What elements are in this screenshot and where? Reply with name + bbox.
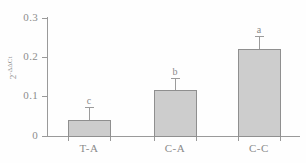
errorbar-cap-c-a [171,78,180,79]
x-tick-label-t-a: T-A [54,142,124,154]
x-tick-mark-0a [68,137,69,141]
errorbar-stem-t-a [89,107,90,120]
bar-c-c[interactable] [238,49,281,137]
bar-chart-figure: 2-ΔΔCt 0.3 0.2 0.1 0 c b a T-A [0,0,306,163]
errorbar-cap-t-a [85,107,94,108]
significance-letter-c-c: a [244,24,274,35]
x-tick-mark-2a [238,137,239,141]
x-tick-mark-1b [196,137,197,141]
bar-c-a[interactable] [154,90,197,137]
y-axis-title-base: 2 [8,75,18,80]
plot-area: 2-ΔΔCt 0.3 0.2 0.1 0 c b a T-A [0,0,306,163]
significance-letter-t-a: c [74,95,104,106]
errorbar-stem-c-a [175,78,176,90]
y-tick-mark-2 [42,57,47,58]
y-tick-mark-3 [42,18,47,19]
y-axis-title-exponent: -ΔΔCt [6,57,14,75]
x-tick-mark-2b [280,137,281,141]
x-tick-mark-0b [110,137,111,141]
y-tick-label-0: 0 [32,129,38,141]
y-axis-line [47,17,48,137]
x-tick-label-c-c: C-C [224,142,294,154]
y-tick-label-2: 0.2 [23,50,38,62]
y-tick-mark-0 [42,136,47,137]
bar-t-a[interactable] [68,120,111,137]
significance-letter-c-a: b [160,66,190,77]
y-tick-label-3: 0.3 [23,11,38,23]
y-axis-title: 2-ΔΔCt [6,38,18,98]
x-tick-label-c-a: C-A [140,142,210,154]
x-tick-mark-1a [154,137,155,141]
y-tick-mark-1 [42,96,47,97]
errorbar-cap-c-c [255,36,264,37]
errorbar-stem-c-c [259,36,260,49]
y-tick-label-1: 0.1 [23,89,38,101]
